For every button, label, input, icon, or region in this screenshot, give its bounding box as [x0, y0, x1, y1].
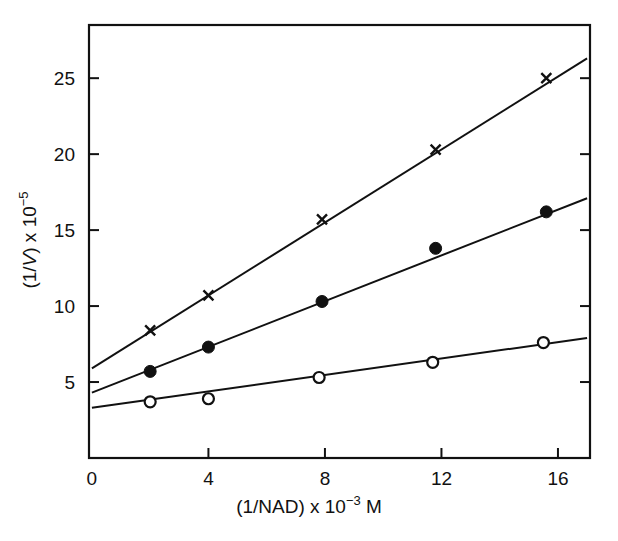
- data-point: [145, 396, 156, 407]
- y-tick-label-25: 25: [54, 68, 75, 89]
- x-axis-title: (1/NAD) x 10−3 M: [236, 493, 382, 517]
- x-tick-label-16: 16: [547, 468, 568, 489]
- y-tick-label-5: 5: [64, 372, 75, 393]
- data-series-layer: [92, 58, 587, 407]
- data-point: [538, 337, 549, 348]
- y-tick-label-10: 10: [54, 296, 75, 317]
- data-point: [427, 357, 438, 368]
- data-point: [430, 242, 442, 254]
- y-axis-tick-labels: 510152025: [54, 68, 75, 393]
- y-tick-label-15: 15: [54, 220, 75, 241]
- x-tick-label-4: 4: [203, 468, 214, 489]
- data-point: [541, 73, 551, 83]
- x-tick-label-8: 8: [320, 468, 331, 489]
- plot-frame: [89, 25, 590, 458]
- plot-canvas: 0481216 510152025 (1/NAD) x 10−3 M (1/V)…: [0, 0, 618, 541]
- x-tick-label-12: 12: [431, 468, 452, 489]
- data-point: [203, 290, 213, 300]
- series-filled-circle-series: [92, 198, 587, 392]
- data-point: [540, 206, 552, 218]
- data-point: [316, 296, 328, 308]
- data-point: [317, 214, 327, 224]
- x-axis-tick-labels: 0481216: [87, 468, 569, 489]
- y-axis-ticks: [89, 78, 590, 382]
- x-tick-label-0: 0: [87, 468, 98, 489]
- fit-line-filled-circle-series: [92, 198, 587, 392]
- fit-line-cross-series: [92, 58, 587, 368]
- series-cross-series: [92, 58, 587, 368]
- x-axis-ticks: [208, 448, 558, 458]
- data-point: [203, 393, 214, 404]
- y-tick-label-20: 20: [54, 144, 75, 165]
- series-open-circle-series: [92, 337, 587, 408]
- data-point: [202, 341, 214, 353]
- lineweaver-burk-figure: 0481216 510152025 (1/NAD) x 10−3 M (1/V)…: [0, 0, 618, 541]
- data-point: [144, 365, 156, 377]
- y-axis-title: (1/V) x 10−5: [16, 191, 40, 288]
- data-point: [314, 372, 325, 383]
- fit-line-open-circle-series: [92, 338, 587, 408]
